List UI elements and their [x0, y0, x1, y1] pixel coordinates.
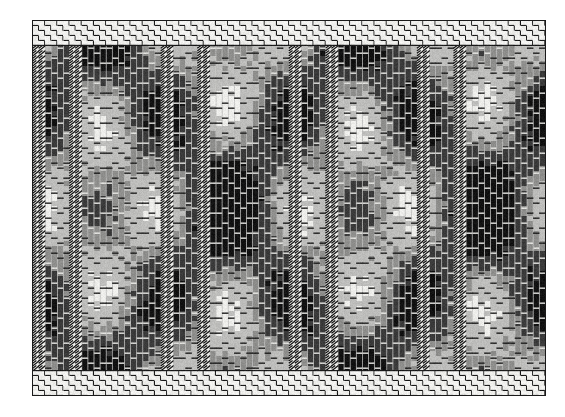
weave-pattern-canvas [33, 21, 545, 395]
page-root [0, 0, 565, 417]
textile-swatch-plate [32, 20, 546, 396]
